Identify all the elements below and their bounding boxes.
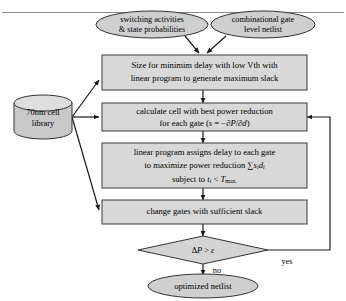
step-size-line1: Size for minimim delay with low Vth with (131, 60, 278, 70)
process-size-for-minimum-delay: Size for minimim delay with low Vth with… (102, 55, 307, 90)
output-label: optimized netlist (174, 281, 232, 291)
library-line1: 70nm cell (26, 108, 60, 117)
step-linear-line2: to maximize power reduction ∑sidi (144, 160, 265, 170)
input-switching-line2: & state probabilities (119, 25, 185, 34)
lin3-op: < (211, 174, 220, 184)
lin3-sub-T: max. (225, 178, 237, 184)
lin3-prefix: subject to (172, 174, 207, 184)
calc-slash: /∂ (236, 118, 243, 128)
calc-prefix: for each gate ( (159, 118, 209, 128)
step-change-line1: change gates with sufficient slack (147, 206, 264, 216)
step-calculate-line2: for each gate (s = −∂P/∂d) (159, 118, 249, 128)
terminal-optimized-netlist: optimized netlist (148, 274, 258, 298)
edge-library-to-change (72, 117, 99, 210)
step-size-line2: linear program to generate maximum slack (131, 73, 279, 83)
edge-label-no: no (213, 266, 221, 275)
calc-suffix: ) (247, 118, 250, 128)
process-linear-program-assigns-delay: linear program assigns delay to each gat… (102, 143, 307, 188)
step-calculate-line1: calculate cell with best power reduction (136, 106, 273, 116)
decision-op: > (202, 245, 211, 254)
edge-netlist-to-size (207, 36, 226, 53)
library-line2: library (32, 119, 55, 128)
decision-label: ΔP > ε (192, 245, 215, 254)
input-netlist-line2: level netlist (244, 25, 283, 34)
flowchart-figure: switching activities & state probabiliti… (0, 0, 346, 301)
lin-prefix: to maximize power reduction (144, 160, 247, 170)
decision-delta-power-gt-epsilon: ΔP > ε (138, 236, 268, 264)
edge-switching-to-size (185, 36, 199, 53)
input-switching-line1: switching activities (120, 15, 183, 24)
edge-label-yes: yes (281, 257, 292, 266)
process-change-gates: change gates with sufficient slack (102, 200, 307, 224)
input-switching-activities: switching activities & state probabiliti… (96, 11, 208, 38)
datastore-cell-library: 70nm cell library (14, 95, 72, 139)
process-calculate-cell-power-reduction: calculate cell with best power reduction… (102, 103, 307, 131)
calc-mid: = −∂ (212, 118, 230, 128)
input-netlist-line1: combinational gate (232, 15, 295, 24)
input-combinational-netlist: combinational gate level netlist (211, 11, 315, 38)
edge-library-to-size (72, 80, 99, 117)
step-linear-line1: linear program assigns delay to each gat… (134, 147, 276, 157)
